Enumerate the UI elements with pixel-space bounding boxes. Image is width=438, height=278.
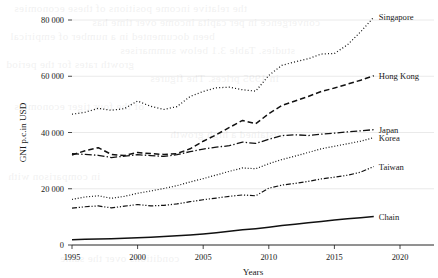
series-label-korea: Korea	[379, 133, 400, 143]
series-label-singapore: Singapore	[379, 12, 414, 22]
y-tick-label: 20 000	[41, 185, 64, 194]
x-tick-label: 1995	[64, 253, 81, 262]
x-tick-label: 2010	[260, 253, 277, 262]
series-label-hong-kong: Hong Kong	[379, 71, 420, 81]
x-tick-label: 2000	[129, 253, 146, 262]
series-line-singapore	[72, 17, 374, 114]
y-axis-title: GNI p.c.in USD	[18, 102, 28, 162]
y-tick-label: 40 000	[41, 129, 64, 138]
x-axis-title: Years	[243, 267, 264, 277]
y-tick-label: 0	[60, 241, 64, 250]
x-tick-label: 2020	[392, 253, 409, 262]
series-line-chain	[72, 217, 374, 240]
x-tick-label: 2015	[326, 253, 343, 262]
series-line-japan	[72, 130, 374, 158]
series-label-chain: Chain	[379, 212, 400, 222]
y-tick-label: 80 000	[41, 16, 64, 25]
series-line-korea	[72, 138, 374, 200]
chart-figure: the relative income positions of these e…	[0, 0, 438, 278]
series-label-taiwan: Taiwan	[379, 162, 405, 172]
line-chart: 020 00040 00060 00080 000199520002005201…	[0, 0, 438, 278]
y-tick-label: 60 000	[41, 72, 64, 81]
x-tick-label: 2005	[195, 253, 212, 262]
